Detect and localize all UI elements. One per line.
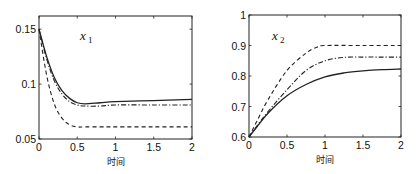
y-tick-label: 0.6: [231, 131, 246, 143]
x-tick-label: 0.5: [280, 139, 295, 151]
series-dashed-line: [249, 45, 401, 137]
x-tick-label: 1: [322, 139, 328, 151]
series-dash-dot-line: [39, 29, 192, 106]
x-axis-label: 时间: [316, 154, 334, 165]
y-tick-label: 1: [240, 9, 246, 21]
x-tick-label: 2: [398, 139, 404, 151]
y-tick-label: 0.05: [16, 133, 37, 145]
figure: 00.511.520.050.10.15时间x100.511.520.60.70…: [0, 0, 418, 174]
chart-1: 00.511.520.050.10.15时间x1: [16, 16, 196, 167]
y-tick-label: 0.9: [231, 40, 246, 52]
chart-2: 00.511.520.60.70.80.91时间x2: [231, 9, 404, 165]
variable-annotation: x: [79, 28, 86, 43]
y-tick-label: 0.1: [21, 78, 36, 90]
y-tick-label: 0.15: [16, 23, 37, 35]
variable-subscript: 1: [88, 35, 93, 45]
x-tick-label: 0: [36, 141, 42, 153]
variable-subscript: 2: [280, 35, 285, 45]
y-tick-label: 0.8: [231, 70, 246, 82]
series-solid-line: [249, 69, 401, 137]
series-dash-dot-line: [249, 57, 401, 137]
variable-annotation: x: [271, 28, 278, 43]
x-tick-label: 2: [189, 141, 195, 153]
y-tick-label: 0.7: [231, 101, 246, 113]
x-tick-label: 1.5: [356, 139, 371, 151]
series-dashed-line: [39, 29, 192, 127]
series-solid-line: [39, 29, 192, 104]
x-tick-label: 1: [113, 141, 119, 153]
x-tick-label: 0.5: [70, 141, 85, 153]
axes-box: [39, 16, 192, 139]
x-tick-label: 0: [246, 139, 252, 151]
x-axis-label: 时间: [107, 156, 125, 167]
x-tick-label: 1.5: [146, 141, 161, 153]
